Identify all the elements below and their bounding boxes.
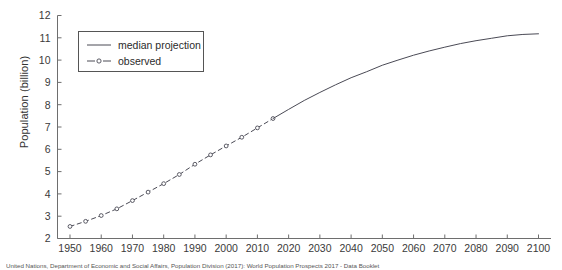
legend-key-solid-line	[86, 39, 112, 51]
y-tick-label: 6	[45, 143, 51, 155]
data-point-marker	[224, 144, 228, 148]
y-axis-title: Population (billion)	[18, 32, 30, 172]
x-tick-label: 2060	[402, 242, 426, 254]
data-point-marker	[84, 219, 88, 223]
legend-item-median-projection: median projection	[86, 37, 196, 53]
legend-item-observed: observed	[86, 53, 196, 69]
x-tick-label: 2010	[246, 242, 270, 254]
data-point-marker	[209, 153, 213, 157]
x-tick-label: 2020	[277, 242, 301, 254]
data-point-marker	[240, 135, 244, 139]
x-tick-label: 2100	[527, 242, 551, 254]
x-tick-label: 1990	[183, 242, 207, 254]
x-tick-label: 1960	[90, 242, 114, 254]
y-tick-label: 9	[45, 76, 51, 88]
data-point-marker	[115, 207, 119, 211]
data-point-marker	[162, 182, 166, 186]
y-tick-label: 10	[39, 54, 51, 66]
data-point-marker	[177, 173, 181, 177]
data-point-marker	[68, 225, 72, 229]
data-point-marker	[256, 126, 260, 130]
x-tick-label: 2090	[496, 242, 520, 254]
x-tick-label: 2050	[371, 242, 395, 254]
series-line-observed	[70, 119, 273, 227]
data-point-marker	[193, 162, 197, 166]
data-point-marker	[131, 199, 135, 203]
x-tick-label: 1950	[58, 242, 82, 254]
y-tick-label: 7	[45, 121, 51, 133]
y-tick-label: 12	[39, 9, 51, 21]
source-caption: United Nations, Department of Economic a…	[6, 262, 558, 270]
y-tick-label: 8	[45, 99, 51, 111]
x-tick-label: 2040	[339, 242, 363, 254]
x-tick-label: 1970	[121, 242, 145, 254]
x-tick-label: 1980	[152, 242, 176, 254]
chart-legend: median projection observed	[78, 31, 204, 72]
data-point-marker	[146, 190, 150, 194]
legend-label-observed: observed	[118, 55, 161, 67]
x-tick-label: 2070	[433, 242, 457, 254]
data-point-marker	[99, 214, 103, 218]
y-tick-label: 3	[45, 210, 51, 222]
x-tick-label: 2030	[308, 242, 332, 254]
y-tick-label: 4	[45, 188, 51, 200]
y-tick-label: 11	[40, 32, 51, 44]
y-tick-label: 2	[45, 232, 51, 244]
y-tick-label: 5	[45, 165, 51, 177]
population-projection-chart: 2345678910111219501960197019801990200020…	[0, 0, 562, 270]
x-tick-label: 2080	[464, 242, 488, 254]
series-line-median-projection	[273, 34, 538, 119]
legend-label-median-projection: median projection	[118, 39, 201, 51]
x-tick-label: 2000	[214, 242, 238, 254]
legend-key-dashed-circle	[86, 55, 112, 67]
